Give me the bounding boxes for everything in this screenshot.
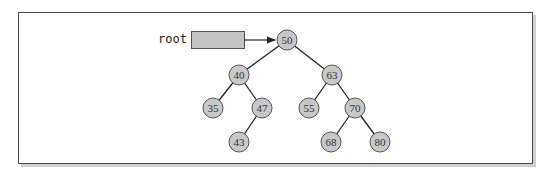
- tree-node-40: 40: [229, 65, 249, 85]
- tree-nodes: 50406335475570436880: [203, 30, 390, 152]
- node-value: 50: [282, 34, 294, 46]
- tree-node-50: 50: [277, 30, 297, 50]
- tree-edges: [213, 40, 380, 142]
- node-value: 68: [326, 136, 338, 148]
- tree-node-68: 68: [321, 132, 341, 152]
- tree-node-80: 80: [370, 132, 390, 152]
- tree-node-35: 35: [203, 98, 223, 118]
- tree-canvas: 50406335475570436880: [0, 0, 551, 178]
- node-value: 63: [327, 69, 339, 81]
- tree-node-55: 55: [299, 98, 319, 118]
- node-value: 40: [234, 69, 246, 81]
- node-value: 55: [304, 102, 316, 114]
- tree-node-70: 70: [345, 98, 365, 118]
- node-value: 70: [350, 102, 362, 114]
- node-value: 35: [208, 102, 220, 114]
- tree-node-47: 47: [252, 98, 272, 118]
- tree-node-63: 63: [322, 65, 342, 85]
- node-value: 47: [257, 102, 269, 114]
- node-value: 43: [234, 136, 246, 148]
- node-value: 80: [375, 136, 387, 148]
- tree-node-43: 43: [229, 132, 249, 152]
